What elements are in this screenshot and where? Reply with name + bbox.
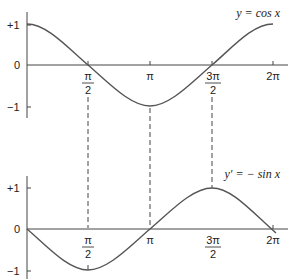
bottom-xlabel-three-half-pi-den: 2 [210, 248, 216, 260]
bottom-xlabel-half-pi-den: 2 [85, 248, 91, 260]
top-curve-label: y = cos x [235, 6, 280, 20]
top-graph: +1 0 −1 π 2 π 3π 2 2π y = cos x [7, 6, 288, 118]
bottom-curve-label: y′ = − sin x [224, 167, 281, 181]
top-xlabel-three-half-pi-den: 2 [210, 84, 216, 96]
top-xlabel-half-pi-den: 2 [85, 84, 91, 96]
top-xlabel-pi: π [146, 70, 154, 82]
top-ylabel-zero: 0 [14, 59, 20, 71]
bottom-xlabel-pi: π [146, 234, 154, 246]
bottom-ylabel-p1: +1 [7, 182, 20, 194]
dashed-guides [88, 97, 212, 228]
top-xlabel-half-pi-num: π [84, 70, 92, 82]
bottom-xlabel-half-pi-num: π [84, 234, 92, 246]
top-xlabel-three-half-pi-num: 3π [206, 70, 220, 82]
bottom-xlabel-three-half-pi-num: 3π [206, 234, 220, 246]
top-ylabel-m1: −1 [7, 101, 20, 113]
top-xlabel-two-pi: 2π [266, 70, 280, 82]
bottom-xlabel-two-pi: 2π [266, 234, 280, 246]
derivative-figure: +1 0 −1 π 2 π 3π 2 2π y = cos x +1 0 −1 [0, 0, 288, 279]
bottom-graph: +1 0 −1 π 2 π 3π 2 2π y′ = − sin x [7, 167, 288, 279]
bottom-ylabel-m1: −1 [7, 265, 20, 277]
top-ylabel-p1: +1 [7, 19, 20, 31]
bottom-ylabel-zero: 0 [14, 223, 20, 235]
